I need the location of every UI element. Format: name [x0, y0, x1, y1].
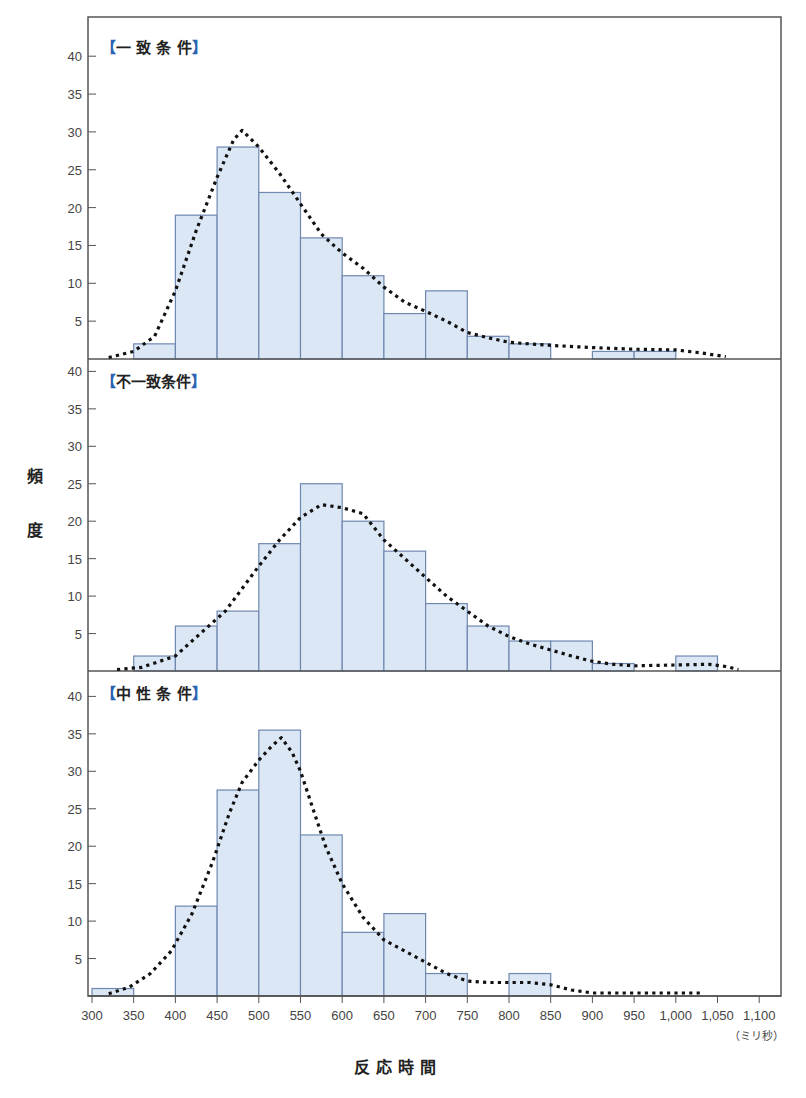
- histogram-bar: [634, 351, 676, 359]
- histogram-bar: [592, 351, 634, 359]
- x-tick-label: 850: [540, 1008, 562, 1023]
- x-axis-title: 反応時間: [354, 1058, 442, 1077]
- x-tick-label: 600: [331, 1008, 353, 1023]
- histogram-figure: 510152025303540【一 致 条 件】510152025303540【…: [0, 0, 806, 1098]
- x-tick-label: 400: [165, 1008, 187, 1023]
- x-tick-label: 1,100: [743, 1008, 776, 1023]
- x-tick-label: 550: [290, 1008, 312, 1023]
- histogram-bar: [342, 276, 384, 359]
- histogram-bar: [467, 336, 509, 359]
- y-axis-title: 度: [27, 521, 44, 540]
- histogram-bar: [175, 215, 217, 359]
- y-tick-label: 15: [68, 877, 82, 892]
- histogram-bar: [217, 611, 259, 671]
- histogram-bar: [426, 291, 468, 359]
- x-tick-label: 500: [248, 1008, 270, 1023]
- y-tick-label: 40: [68, 364, 82, 379]
- y-tick-label: 35: [68, 87, 82, 102]
- y-tick-label: 25: [68, 163, 82, 178]
- histogram-bar: [467, 626, 509, 671]
- y-tick-label: 25: [68, 477, 82, 492]
- y-tick-label: 40: [68, 49, 82, 64]
- y-tick-label: 5: [75, 952, 82, 967]
- x-tick-label: 950: [623, 1008, 645, 1023]
- histogram-bar: [259, 730, 301, 996]
- panel-2: 510152025303540【不一致条件】: [68, 364, 781, 671]
- y-tick-label: 20: [68, 201, 82, 216]
- histogram-bar: [301, 238, 343, 359]
- y-tick-label: 10: [68, 914, 82, 929]
- histogram-bar: [259, 192, 301, 359]
- histogram-bar: [175, 626, 217, 671]
- histogram-bar: [342, 932, 384, 996]
- y-tick-label: 20: [68, 514, 82, 529]
- x-tick-label: 900: [582, 1008, 604, 1023]
- panel-3: 510152025303540【中 性 条 件】: [68, 685, 781, 996]
- y-tick-label: 40: [68, 689, 82, 704]
- histogram-bar: [217, 790, 259, 996]
- histogram-bar: [301, 484, 343, 671]
- y-tick-label: 15: [68, 552, 82, 567]
- x-tick-label: 300: [81, 1008, 103, 1023]
- histogram-bar: [384, 314, 426, 359]
- x-tick-label: 800: [498, 1008, 520, 1023]
- histogram-bar: [426, 974, 468, 996]
- y-tick-label: 30: [68, 764, 82, 779]
- panel-title: 【一 致 条 件】: [101, 39, 207, 57]
- x-tick-label: 750: [456, 1008, 478, 1023]
- panel-title: 【不一致条件】: [101, 373, 206, 391]
- histogram-bar: [509, 344, 551, 359]
- histogram-bar: [259, 544, 301, 671]
- histogram-bar: [426, 604, 468, 671]
- histogram-bar: [134, 344, 176, 359]
- histogram-bar: [175, 906, 217, 996]
- y-tick-label: 10: [68, 276, 82, 291]
- y-tick-label: 5: [75, 314, 82, 329]
- x-tick-label: 1,050: [701, 1008, 734, 1023]
- y-tick-label: 25: [68, 802, 82, 817]
- y-tick-label: 35: [68, 727, 82, 742]
- y-tick-label: 15: [68, 238, 82, 253]
- y-tick-label: 30: [68, 439, 82, 454]
- x-tick-label: 1,000: [660, 1008, 693, 1023]
- x-tick-label: 350: [123, 1008, 145, 1023]
- histogram-bar: [301, 835, 343, 996]
- plot-frame: [88, 17, 781, 996]
- histogram-bar: [384, 914, 426, 996]
- x-tick-label: 650: [373, 1008, 395, 1023]
- x-tick-label: 450: [206, 1008, 228, 1023]
- histogram-bar: [92, 989, 134, 996]
- y-tick-label: 5: [75, 627, 82, 642]
- panel-title: 【中 性 条 件】: [101, 685, 207, 703]
- x-tick-label: 700: [415, 1008, 437, 1023]
- y-tick-label: 35: [68, 402, 82, 417]
- y-tick-label: 10: [68, 589, 82, 604]
- y-axis-title: 頻: [27, 467, 43, 486]
- y-tick-label: 30: [68, 125, 82, 140]
- histogram-bar: [509, 641, 551, 671]
- histogram-bar: [384, 551, 426, 671]
- histogram-bar: [217, 147, 259, 359]
- panel-1: 510152025303540【一 致 条 件】: [68, 39, 781, 359]
- y-tick-label: 20: [68, 839, 82, 854]
- histogram-bar: [342, 521, 384, 671]
- x-axis-unit: （ミリ秒）: [729, 1029, 784, 1043]
